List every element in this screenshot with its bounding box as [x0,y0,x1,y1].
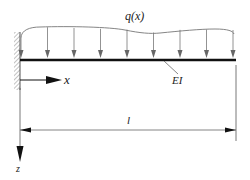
load-label: q(x) [125,9,144,23]
dimension-arrow-left [20,128,31,133]
load-arrow-head [125,50,130,58]
x-axis: x [20,72,70,87]
load-arrow-head [98,50,103,58]
distributed-load [19,27,236,58]
load-arrow-head [151,50,156,58]
wall-hatch [14,32,20,90]
z-axis-arrowhead [17,146,24,162]
load-arrow-head [204,50,209,58]
load-arrow-head [72,50,77,58]
length-dimension: l [20,65,236,141]
load-arrow-head [178,50,183,58]
beam-stiffness-label: EI [171,74,184,86]
length-label: l [127,114,130,126]
x-axis-label: x [63,72,70,87]
load-curve [21,27,234,38]
load-arrow-head [231,50,236,58]
z-axis: z [15,88,24,174]
x-axis-arrowhead [46,76,62,84]
z-axis-label: z [15,163,20,174]
fixed-support [14,32,20,90]
ei-leader-line [164,61,178,74]
load-arrow-head [45,50,50,58]
dimension-arrow-right [225,128,236,133]
cantilever-beam-diagram: EI q(x) x z l [0,0,250,180]
